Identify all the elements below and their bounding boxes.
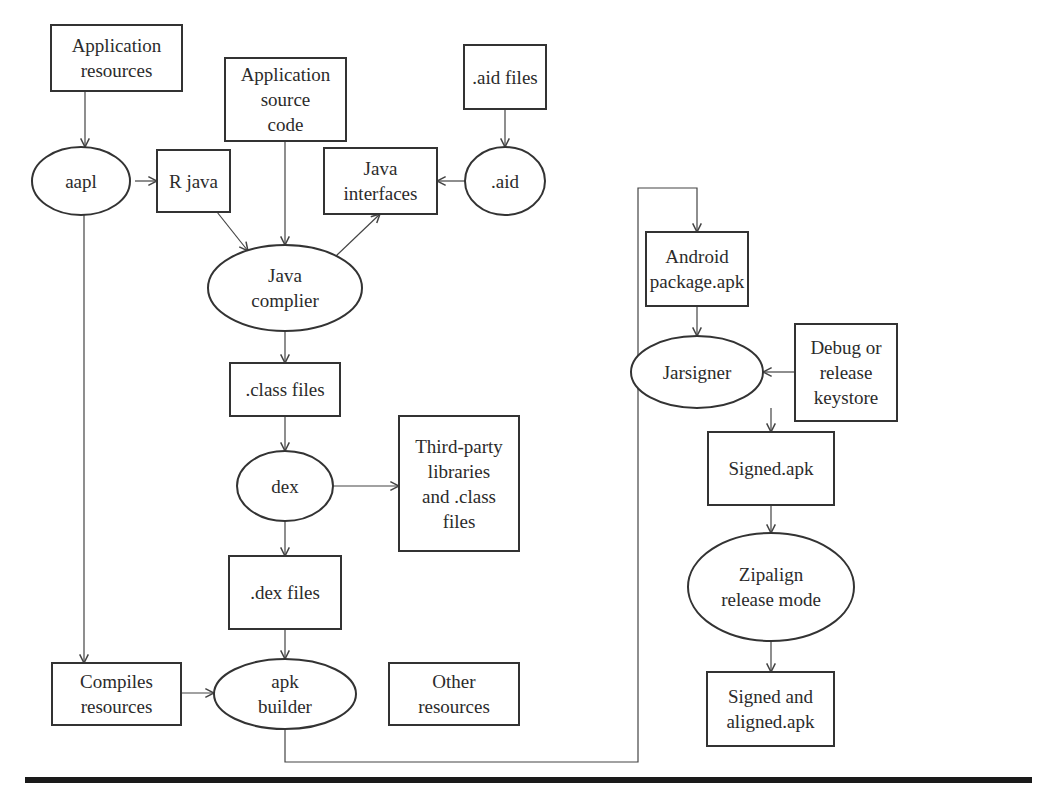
build-process-diagram: ApplicationresourcesApplicationsourcecod… — [0, 0, 1062, 801]
node-zipalign: Zipalignrelease mode — [688, 533, 854, 641]
node-signed-apk: Signed.apk — [708, 432, 834, 505]
node-other-resources: Otherresources — [389, 663, 519, 725]
node-app-resources: Applicationresources — [51, 25, 182, 91]
node-label: .class files — [245, 379, 324, 400]
node-label: files — [443, 511, 476, 532]
node-label: Third-party — [415, 436, 503, 457]
node-java-interfaces: Javainterfaces — [324, 148, 437, 214]
node-keystore: Debug orreleasekeystore — [795, 324, 897, 421]
node-label: apk — [271, 671, 299, 692]
node-label: and .class — [422, 486, 496, 507]
bottom-rule — [25, 777, 1032, 783]
node-label: release — [820, 362, 873, 383]
node-label: .aid files — [472, 67, 537, 88]
ellipse-shape — [688, 533, 854, 641]
nodes-layer: ApplicationresourcesApplicationsourcecod… — [32, 25, 897, 746]
node-aapl: aapl — [32, 147, 130, 215]
node-jarsigner: Jarsigner — [631, 336, 763, 408]
node-app-source: Applicationsourcecode — [225, 58, 346, 141]
box-shape — [646, 232, 748, 306]
node-label: Other — [432, 671, 476, 692]
node-label: code — [268, 114, 304, 135]
node-label: Compiles — [80, 671, 153, 692]
node-label: package.apk — [650, 271, 745, 292]
node-label: Signed and — [728, 686, 813, 707]
node-java-compiler: Javacomplier — [208, 245, 362, 331]
node-label: .aid — [491, 171, 519, 192]
node-label: aapl — [65, 171, 97, 192]
node-signed-aligned: Signed andaligned.apk — [707, 672, 834, 746]
node-label: resources — [418, 696, 490, 717]
node-label: Java — [364, 158, 398, 179]
node-third-party: Third-partylibrariesand .classfiles — [399, 416, 519, 551]
horizontal-rule — [25, 777, 1032, 783]
box-shape — [707, 672, 834, 746]
node-class-files: .class files — [230, 363, 340, 416]
ellipse-shape — [214, 659, 356, 729]
node-label: interfaces — [344, 183, 418, 204]
node-label: Application — [241, 64, 331, 85]
node-aid-files: .aid files — [464, 45, 546, 109]
node-label: complier — [251, 290, 319, 311]
node-label: release mode — [721, 589, 821, 610]
node-label: Java — [268, 265, 302, 286]
node-label: aligned.apk — [726, 711, 815, 732]
node-android-package: Androidpackage.apk — [646, 232, 748, 306]
ellipse-shape — [208, 245, 362, 331]
node-label: builder — [258, 696, 312, 717]
node-label: Jarsigner — [663, 362, 732, 383]
node-label: dex — [271, 476, 299, 497]
edge-r-java-to-java-compiler — [217, 212, 248, 251]
node-aid: .aid — [465, 147, 545, 215]
node-label: keystore — [814, 387, 878, 408]
node-label: source — [261, 89, 311, 110]
node-label: libraries — [428, 461, 490, 482]
node-label: .dex files — [250, 582, 320, 603]
node-compiles-resources: Compilesresources — [52, 663, 181, 725]
node-label: Android — [665, 246, 729, 267]
node-label: resources — [81, 696, 153, 717]
edge-java-compiler-to-java-interfaces — [336, 214, 380, 256]
node-label: Debug or — [810, 337, 882, 358]
node-label: Signed.apk — [729, 458, 814, 479]
node-dex: dex — [237, 451, 333, 521]
node-label: resources — [81, 60, 153, 81]
node-r-java: R java — [157, 150, 230, 212]
node-label: Zipalign — [739, 564, 804, 585]
node-apk-builder: apkbuilder — [214, 659, 356, 729]
node-label: R java — [169, 171, 219, 192]
node-dex-files: .dex files — [229, 556, 341, 629]
node-label: Application — [72, 35, 162, 56]
